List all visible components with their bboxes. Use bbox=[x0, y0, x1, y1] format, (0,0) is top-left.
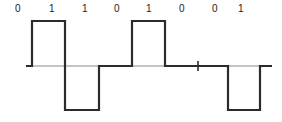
waveform-plot bbox=[0, 0, 282, 122]
waveform-figure: 01101001 bbox=[0, 0, 282, 122]
